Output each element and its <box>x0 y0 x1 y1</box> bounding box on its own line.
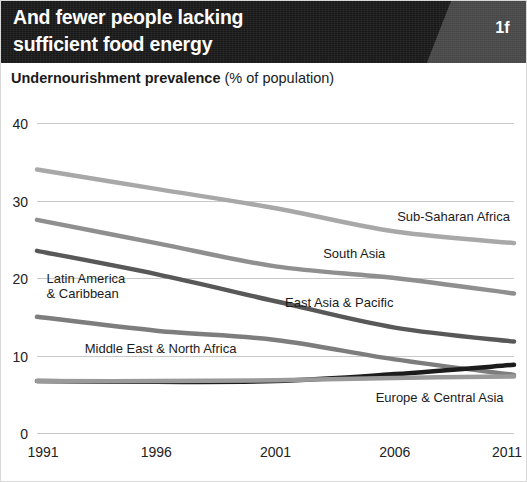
series-label: Latin America <box>47 271 127 286</box>
banner-title: And fewer people lacking sufficient food… <box>13 4 393 58</box>
series-label: Europe & Central Asia <box>376 390 505 405</box>
data-line <box>37 376 514 381</box>
badge-panel <box>418 1 527 63</box>
chart-subtitle: Undernourishment prevalence (% of popula… <box>11 70 334 86</box>
y-axis-tick-label: 30 <box>12 194 28 210</box>
series-label: Sub-Saharan Africa <box>397 209 511 224</box>
x-axis-tick-label: 2006 <box>379 444 410 460</box>
x-axis-tick-label: 2001 <box>260 444 291 460</box>
x-axis-tick-label: 1996 <box>141 444 172 460</box>
y-axis-tick-label: 10 <box>12 349 28 365</box>
y-axis-labels-group: 010203040 <box>12 116 28 442</box>
chart-subtitle-bold: Undernourishment prevalence <box>11 70 221 86</box>
header-banner: And fewer people lacking sufficient food… <box>1 1 527 63</box>
chart-subtitle-light: (% of population) <box>221 70 335 86</box>
series-label: Middle East & North Africa <box>85 341 237 356</box>
figure-badge: 1f <box>495 19 510 37</box>
line-chart: 010203040 Sub-Saharan AfricaSouth AsiaEa… <box>1 96 527 482</box>
x-axis-tick-label: 1991 <box>27 444 58 460</box>
infographic-panel: And fewer people lacking sufficient food… <box>0 0 527 482</box>
x-axis-labels-group: 19911996200120062011 <box>27 444 522 460</box>
y-axis-tick-label: 20 <box>12 271 28 287</box>
x-axis-tick-label: 2011 <box>492 444 522 460</box>
series-label: & Caribbean <box>47 286 119 301</box>
chart-canvas: 010203040 Sub-Saharan AfricaSouth AsiaEa… <box>1 96 527 482</box>
y-axis-tick-label: 0 <box>20 426 28 442</box>
series-label: East Asia & Pacific <box>285 295 394 310</box>
y-axis-tick-label: 40 <box>12 116 28 132</box>
series-label: South Asia <box>323 246 386 261</box>
